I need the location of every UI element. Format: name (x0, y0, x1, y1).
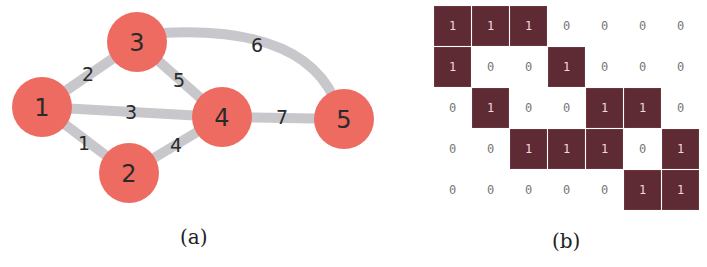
node-3: 3 (107, 12, 167, 72)
matrix-cell: 0 (624, 129, 661, 169)
matrix-cell: 0 (662, 47, 699, 87)
matrix-cell: 1 (586, 129, 623, 169)
edge-label-6: 6 (251, 34, 263, 56)
matrix-cell: 0 (624, 47, 661, 87)
svg-text:4: 4 (214, 104, 229, 132)
svg-text:2: 2 (121, 160, 136, 188)
edge-label-1: 1 (78, 132, 90, 154)
matrix-cell: 0 (434, 88, 471, 128)
matrix-cell: 1 (624, 170, 661, 210)
matrix-cell: 0 (548, 170, 585, 210)
matrix-cell: 1 (662, 170, 699, 210)
node-5: 5 (314, 89, 374, 149)
matrix-cell: 0 (434, 129, 471, 169)
matrix-cell: 0 (662, 6, 699, 46)
edge-label-7: 7 (276, 106, 288, 128)
caption-b: (b) (552, 229, 580, 253)
matrix-cell: 1 (472, 6, 509, 46)
node-1: 1 (12, 77, 72, 137)
matrix-cell: 0 (586, 47, 623, 87)
matrix-cell: 0 (662, 88, 699, 128)
matrix-cell: 0 (510, 88, 547, 128)
caption-a: (a) (180, 225, 208, 249)
nodes: 1 2 3 4 5 (12, 12, 374, 203)
edge-label-4: 4 (170, 134, 182, 156)
matrix-cell: 1 (472, 88, 509, 128)
matrix-cell: 0 (472, 170, 509, 210)
matrix-cell: 0 (510, 47, 547, 87)
matrix-cell: 0 (586, 170, 623, 210)
matrix-cell: 1 (662, 129, 699, 169)
matrix-cell: 0 (510, 170, 547, 210)
edge-label-5: 5 (173, 69, 185, 91)
matrix-cell: 1 (434, 47, 471, 87)
matrix-cell: 1 (510, 6, 547, 46)
matrix-cell: 0 (624, 6, 661, 46)
edge-label-2: 2 (82, 63, 94, 85)
matrix-cell: 1 (434, 6, 471, 46)
svg-text:1: 1 (34, 94, 49, 122)
matrix-cell: 1 (510, 129, 547, 169)
graph-diagram: 1 2 3 4 5 6 7 1 2 3 4 5 (0, 0, 420, 267)
svg-text:5: 5 (336, 106, 351, 134)
node-2: 2 (99, 143, 159, 203)
matrix-cell: 0 (548, 88, 585, 128)
edge-label-3: 3 (125, 101, 137, 123)
node-4: 4 (192, 87, 252, 147)
matrix-cell: 0 (472, 47, 509, 87)
matrix-cell: 0 (434, 170, 471, 210)
matrix-cell: 0 (586, 6, 623, 46)
matrix-cell: 1 (548, 47, 585, 87)
matrix-cell: 0 (548, 6, 585, 46)
svg-text:3: 3 (129, 29, 144, 57)
matrix-cell: 1 (624, 88, 661, 128)
matrix-cell: 0 (472, 129, 509, 169)
matrix-cell: 1 (548, 129, 585, 169)
matrix-cell: 1 (586, 88, 623, 128)
